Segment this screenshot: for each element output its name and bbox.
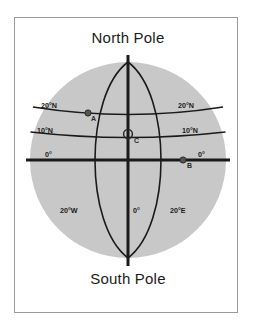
label-lat-20n-right: 20°N	[178, 101, 194, 110]
label-point-a: A	[91, 115, 96, 122]
label-lat-0-left: 0°	[45, 150, 52, 159]
label-point-b: B	[187, 162, 192, 169]
label-point-c: C	[134, 137, 139, 144]
marker-point-b	[180, 157, 186, 163]
label-lon-20w: 20°W	[60, 206, 78, 215]
south-pole-label: South Pole	[0, 270, 256, 287]
label-lat-10n-left: 10°N	[37, 126, 53, 135]
label-lon-0: 0°	[133, 206, 140, 215]
label-lat-0-right: 0°	[198, 150, 205, 159]
figure-diagram: North Pole South Pole 20°N 20°N 10°N 10°…	[0, 0, 256, 332]
label-lon-20e: 20°E	[170, 206, 186, 215]
label-lat-20n-left: 20°N	[41, 101, 57, 110]
north-pole-label: North Pole	[0, 29, 256, 46]
label-lat-10n-right: 10°N	[182, 126, 198, 135]
